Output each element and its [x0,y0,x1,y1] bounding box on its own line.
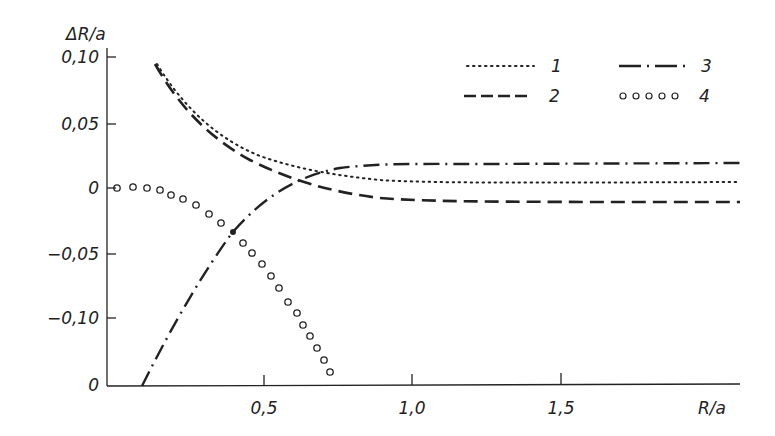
y-tick-label: 0,10 [61,47,99,67]
curve-3-dash-dot [142,163,740,386]
y-ticks [107,57,116,318]
x-tick-label: 1,0 [398,398,425,418]
x-tick-label: 0,5 [250,398,277,418]
legend-label-4: 4 [699,86,710,106]
legend-swatch-4 [620,93,678,99]
legend-label-3: 3 [701,56,712,76]
y-axis-label: ΔR/a [64,24,106,44]
x-axis [107,384,740,386]
y-tick-label: −0,10 [47,308,99,328]
x-tick-label: 1,5 [547,398,574,418]
intersection-point [230,229,236,235]
curve-4-circles [114,184,333,375]
x-ticks [264,373,561,386]
curve-1-dotted [157,64,740,183]
y-tick-label: −0,05 [47,244,99,264]
y-tick-label: 0 [88,178,99,198]
chart: ΔR/a 0,10 0,05 0 −0,05 −0,10 0 0,5 1,0 1… [0,0,775,436]
legend-label-1: 1 [551,56,562,76]
y-tick-label: 0,05 [61,114,99,134]
legend-label-2: 2 [549,86,560,106]
x-axis-label: R/a [698,398,726,418]
legend: 1 2 3 4 [464,56,712,106]
y-tick-label: 0 [88,375,99,395]
